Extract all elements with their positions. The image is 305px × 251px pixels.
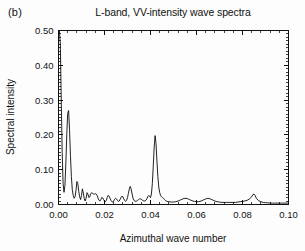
x-tick-label: 0.02 — [95, 209, 114, 220]
y-axis-tick-labels: 0.000.100.200.300.400.50 — [35, 25, 54, 210]
spectral-intensity-plot: 0.000.020.040.060.080.10 0.000.100.200.3… — [0, 0, 305, 251]
x-tick-label: 0.00 — [49, 209, 68, 220]
axes-frame — [59, 31, 289, 205]
x-tick-label: 0.06 — [187, 209, 206, 220]
x-tick-label: 0.08 — [233, 209, 252, 220]
y-tick-label: 0.00 — [35, 199, 54, 210]
data-series-group — [59, 31, 289, 204]
x-axis-tick-labels: 0.000.020.040.060.080.10 — [49, 209, 298, 220]
x-axis-title: Azimuthal wave number — [120, 233, 227, 244]
y-axis-title: Spectral intensity — [5, 79, 16, 155]
y-tick-label: 0.40 — [35, 60, 54, 71]
x-tick-label: 0.10 — [279, 209, 298, 220]
x-tick-label: 0.04 — [141, 209, 160, 220]
figure-panel: (b) L-band, VV-intensity wave spectra 0.… — [0, 0, 305, 251]
y-tick-label: 0.30 — [35, 95, 54, 106]
data-curve — [59, 31, 289, 204]
y-tick-label: 0.10 — [35, 164, 54, 175]
y-tick-label: 0.50 — [35, 25, 54, 36]
axis-ticks — [59, 31, 289, 205]
y-tick-label: 0.20 — [35, 129, 54, 140]
